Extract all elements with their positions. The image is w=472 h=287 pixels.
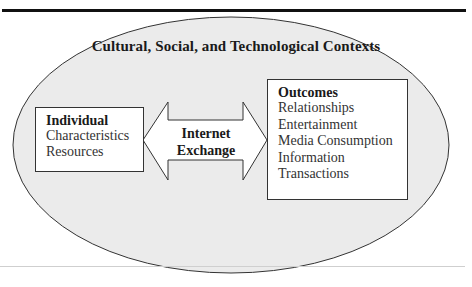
individual-item: Resources	[46, 144, 143, 160]
outcome-item: Information	[278, 150, 407, 167]
outcome-item: Media Consumption	[278, 133, 407, 150]
individual-heading: Individual	[46, 113, 143, 128]
context-title: Cultural, Social, and Technological Cont…	[0, 38, 472, 55]
bottom-rule	[0, 266, 465, 267]
outcome-item: Relationships	[278, 100, 407, 117]
outcome-item: Transactions	[278, 166, 407, 183]
exchange-line-2: Exchange	[168, 142, 244, 159]
exchange-line-1: Internet	[168, 125, 244, 142]
outcomes-heading: Outcomes	[278, 85, 407, 100]
outcomes-box: Outcomes Relationships Entertainment Med…	[267, 79, 408, 200]
individual-item: Characteristics	[46, 128, 143, 144]
individual-box: Individual Characteristics Resources	[35, 107, 144, 172]
outcome-item: Entertainment	[278, 117, 407, 134]
exchange-label: Internet Exchange	[168, 125, 244, 159]
